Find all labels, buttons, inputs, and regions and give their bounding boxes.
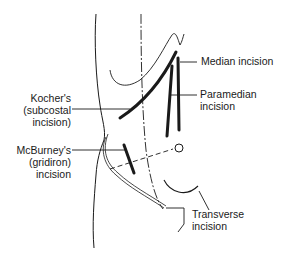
label-transverse-incision: Transverse incision	[192, 208, 244, 232]
label-kocher-incision: Kocher's (subcostal incision)	[0, 92, 71, 128]
inguinal-ligament-inner	[105, 134, 166, 206]
label-median-incision: Median incision	[201, 55, 273, 67]
paramedian-label-line2: incision	[200, 100, 257, 112]
kocher-label-line1: Kocher's	[0, 92, 71, 104]
paramedian-incision	[167, 66, 172, 136]
median-label-text: Median incision	[201, 55, 273, 67]
mcburney-label-line3: incision	[0, 168, 71, 180]
umbilicus	[175, 144, 183, 152]
body-outline-left	[93, 14, 104, 248]
transverse-label-line2: incision	[192, 220, 244, 232]
median-incision	[178, 58, 179, 130]
midline-dashed	[141, 14, 163, 209]
kocher-label-line2: (subcostal	[0, 104, 71, 116]
transverse-incision	[164, 180, 198, 193]
mcburney-label-line2: (gridiron)	[0, 156, 71, 168]
pubic-bracket	[166, 208, 184, 232]
spino-umbilical-line	[110, 149, 173, 169]
mcburney-label-line1: McBurney's	[0, 144, 71, 156]
label-mcburney-incision: McBurney's (gridiron) incision	[0, 144, 71, 180]
abdomen-incision-diagram	[0, 0, 288, 264]
mcburney-incision	[124, 145, 134, 173]
transverse-label-line1: Transverse	[192, 208, 244, 220]
paramedian-label-line1: Paramedian	[200, 88, 257, 100]
kocher-label-line3: incision)	[0, 116, 71, 128]
label-paramedian-incision: Paramedian incision	[200, 88, 257, 112]
